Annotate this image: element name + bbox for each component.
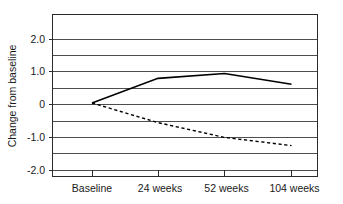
line-chart: 2.0 1.0 0 -1.0 -2.0 Baseline 24 weeks 52…: [0, 0, 343, 204]
chart-container: 2.0 1.0 0 -1.0 -2.0 Baseline 24 weeks 52…: [0, 0, 343, 204]
y-tick-label-1.0: 1.0: [30, 65, 45, 77]
y-tick-label-neg1.0: -1.0: [27, 131, 45, 143]
y-tick-label-0: 0: [39, 98, 45, 110]
y-axis-title: Change from baseline: [6, 44, 18, 147]
x-tick-label-baseline: Baseline: [72, 182, 112, 194]
x-tick-label-52-weeks: 52 weeks: [204, 182, 248, 194]
x-tick-label-24-weeks: 24 weeks: [138, 182, 182, 194]
x-tick-label-104-weeks: 104 weeks: [269, 182, 319, 194]
y-tick-label-neg2.0: -2.0: [27, 164, 45, 176]
y-tick-marks: [49, 39, 53, 170]
y-tick-labels: 2.0 1.0 0 -1.0 -2.0: [27, 33, 45, 176]
y-tick-label-2.0: 2.0: [30, 33, 45, 45]
x-tick-labels: Baseline 24 weeks 52 weeks 104 weeks: [72, 182, 320, 194]
